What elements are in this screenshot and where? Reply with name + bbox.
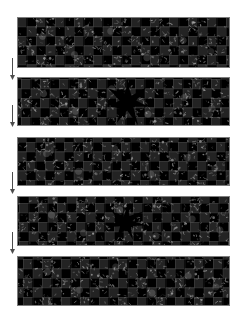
arrow-label: Arrow from panel 3 to panel 4 [9, 194, 10, 195]
grid-layer [17, 137, 230, 186]
lattice-panel-1: Panel 1 [17, 17, 230, 68]
panel-texture [17, 256, 230, 306]
grid-layer [17, 77, 230, 126]
arrow-label: Arrow from panel 2 to panel 3 [9, 127, 10, 128]
lattice-panel-2: Panel 2 [17, 77, 230, 126]
grid-layer [17, 256, 230, 306]
flow-arrow-down-icon-3: Arrow from panel 3 to panel 4 [9, 172, 16, 194]
flow-arrow-down-icon-1: Arrow from panel 1 to panel 2 [9, 58, 16, 80]
arrow-label: Arrow from panel 1 to panel 2 [9, 80, 10, 81]
panel-texture [17, 17, 230, 68]
grid-layer [17, 196, 230, 246]
figure-root: Sequence of five textured checkerboard l… [0, 0, 242, 323]
panel-texture [17, 196, 230, 246]
lattice-panel-4: Panel 4 [17, 196, 230, 246]
lattice-panel-5: Panel 5 [17, 256, 230, 306]
panel-texture [17, 77, 230, 126]
flow-arrow-down-icon-2: Arrow from panel 2 to panel 3 [9, 105, 16, 127]
arrow-label: Arrow from panel 4 to panel 5 [9, 254, 10, 255]
panel-texture [17, 137, 230, 186]
flow-arrow-down-icon-4: Arrow from panel 4 to panel 5 [9, 232, 16, 254]
grid-layer [17, 17, 230, 68]
lattice-panel-3: Panel 3 [17, 137, 230, 186]
figure-title: Sequence of five textured checkerboard l… [0, 21, 1, 22]
